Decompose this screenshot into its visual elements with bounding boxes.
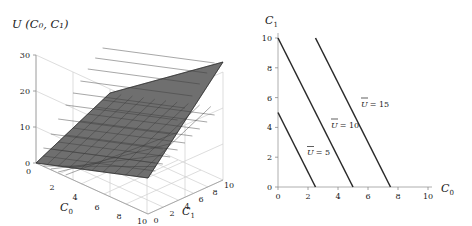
c0-axis-title: C0 (60, 201, 73, 216)
svg-text:U= 10: U= 10 (331, 121, 359, 130)
contour-plot-panel: 0 2 4 6 8 10 0 2 4 6 8 10 (236, 0, 472, 226)
contour-y-tick-label: 6 (267, 94, 272, 103)
figure-root: 0 10 20 30 (0, 0, 472, 226)
c0-tick-label: 8 (116, 212, 121, 221)
c1-axis-title: C1 (182, 205, 195, 220)
contour-y-tick-label: 0 (267, 183, 272, 192)
contour-line-u15 (316, 38, 391, 187)
c0-tick-label: 6 (94, 203, 99, 212)
z-tick-label: 10 (20, 123, 30, 132)
contour-x-tick-label: 2 (305, 192, 310, 201)
contour-y-ticks: 0 2 4 6 8 10 (262, 34, 278, 192)
surface-plot-title: U (C₀, C₁) (12, 17, 68, 31)
c1-tick-label: 8 (212, 188, 217, 197)
contour-axes (278, 33, 432, 187)
surface-mesh (36, 48, 223, 178)
contour-x-ticks: 0 2 4 6 8 10 (275, 187, 433, 201)
c1-tick-label: 6 (198, 195, 203, 204)
contour-x-tick-label: 10 (423, 192, 433, 201)
c0-tick-label: 0 (26, 167, 31, 176)
c1-tick-label: 2 (169, 209, 174, 218)
contour-x-tick-label: 8 (395, 192, 400, 201)
contour-y-tick-label: 4 (267, 123, 272, 132)
surface-plot-panel: 0 10 20 30 (0, 0, 236, 226)
contour-label-u15: U= 15 (361, 98, 389, 109)
z-tick-label: 20 (20, 87, 30, 96)
c0-axis-ticks: 0 2 4 6 8 10 (26, 167, 147, 226)
contour-x-axis-title: C0 (441, 182, 454, 197)
svg-text:U= 5: U= 5 (307, 148, 330, 157)
c0-tick-label: 10 (137, 217, 147, 226)
contour-y-tick-label: 2 (267, 153, 272, 162)
contour-lines (278, 38, 391, 187)
contour-y-axis-title: C1 (265, 14, 278, 29)
svg-text:U= 15: U= 15 (361, 100, 389, 109)
c0-tick-label: 4 (72, 193, 77, 202)
c1-tick-label: 0 (153, 216, 158, 225)
contour-x-tick-label: 6 (365, 192, 370, 201)
c0-tick-label: 2 (49, 183, 54, 192)
contour-labels: U= 5 U= 10 U= 15 (307, 98, 389, 157)
z-axis-ticks: 0 10 20 30 (20, 51, 36, 168)
contour-plot-svg: 0 2 4 6 8 10 0 2 4 6 8 10 (236, 0, 472, 226)
surface-plot-svg: 0 10 20 30 (0, 0, 236, 226)
contour-line-u10 (278, 38, 353, 187)
contour-label-u5: U= 5 (307, 147, 330, 158)
contour-label-u10: U= 10 (331, 119, 359, 130)
contour-y-tick-label: 10 (262, 34, 272, 43)
z-tick-label: 30 (20, 51, 30, 60)
contour-x-tick-label: 4 (335, 192, 340, 201)
c1-tick-label: 10 (224, 181, 234, 190)
contour-x-tick-label: 0 (275, 192, 280, 201)
contour-y-tick-label: 8 (267, 64, 272, 73)
surface-title-text: U (C₀, C₁) (12, 17, 68, 31)
